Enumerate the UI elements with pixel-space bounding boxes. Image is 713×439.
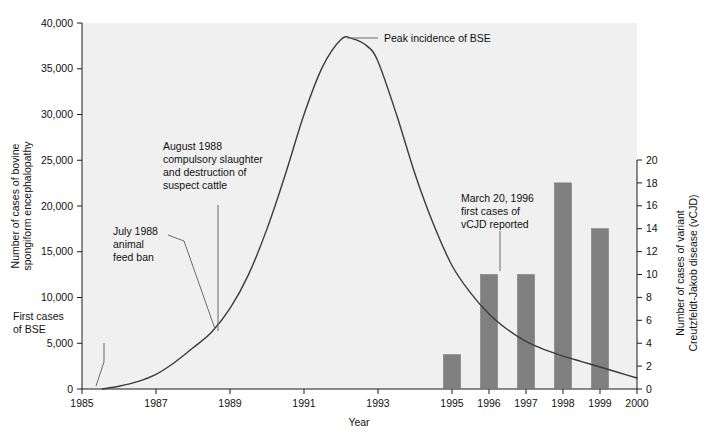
chart-canvas: 05,00010,00015,00020,00025,00030,00035,0… bbox=[0, 0, 713, 439]
left-axis-tick-label: 35,000 bbox=[41, 62, 73, 74]
right-axis-tick-label: 4 bbox=[646, 337, 652, 349]
x-axis-tick-label: 1998 bbox=[551, 397, 575, 409]
right-axis-title-line1: Number of cases of variant bbox=[674, 210, 686, 336]
annotation-text-line: compulsory slaughter bbox=[163, 153, 263, 165]
left-axis-title-line2: spongiform encephalopathy bbox=[21, 141, 33, 271]
annotation-text-line: feed ban bbox=[113, 251, 154, 263]
left-axis-tick-label: 25,000 bbox=[41, 154, 73, 166]
right-axis-tick-label: 0 bbox=[646, 383, 652, 395]
annotation-text-line: animal bbox=[113, 238, 144, 250]
bse-vcjd-chart: 05,00010,00015,00020,00025,00030,00035,0… bbox=[0, 0, 713, 439]
left-axis-tick-label: 10,000 bbox=[41, 291, 73, 303]
annotation-text-line: First cases bbox=[13, 310, 64, 322]
x-axis-tick-label: 1996 bbox=[477, 397, 501, 409]
left-axis-tick-label: 0 bbox=[67, 383, 73, 395]
annotation-text-line: vCJD reported bbox=[461, 218, 529, 230]
left-axis-tick-label: 15,000 bbox=[41, 245, 73, 257]
vcjd-bar bbox=[518, 275, 535, 390]
x-axis-tick-label: 1999 bbox=[588, 397, 612, 409]
right-axis-tick-label: 6 bbox=[646, 314, 652, 326]
annotation-text-line: March 20, 1996 bbox=[461, 192, 534, 204]
left-axis-tick-label: 30,000 bbox=[41, 108, 73, 120]
annotation-text-line: first cases of bbox=[461, 205, 520, 217]
annotation-text-line: and destruction of bbox=[163, 166, 247, 178]
x-axis-tick-label: 1991 bbox=[292, 397, 316, 409]
right-axis-tick-label: 10 bbox=[646, 268, 658, 280]
annotation-text-line: August 1988 bbox=[163, 140, 222, 152]
left-axis-title-line1: Number of cases of bovine bbox=[9, 143, 21, 268]
x-axis-tick-label: 1989 bbox=[218, 397, 242, 409]
x-axis-tick-label: 1995 bbox=[440, 397, 464, 409]
annotation-text-line: Peak incidence of BSE bbox=[384, 32, 491, 44]
annotation-text-line: of BSE bbox=[13, 323, 46, 335]
right-axis-tick-label: 16 bbox=[646, 199, 658, 211]
vcjd-bar bbox=[481, 275, 498, 390]
left-axis-tick-label: 5,000 bbox=[47, 337, 73, 349]
x-axis-tick-label: 1987 bbox=[144, 397, 168, 409]
right-axis-tick-label: 2 bbox=[646, 360, 652, 372]
right-axis-tick-label: 18 bbox=[646, 177, 658, 189]
x-axis-tick-label: 1985 bbox=[70, 397, 94, 409]
annotation-text-line: suspect cattle bbox=[163, 179, 227, 191]
x-axis-tick-label: 2000 bbox=[625, 397, 649, 409]
right-axis-tick-label: 14 bbox=[646, 222, 658, 234]
left-axis-tick-label: 40,000 bbox=[41, 17, 73, 29]
right-axis-tick-label: 8 bbox=[646, 291, 652, 303]
x-axis-tick-label: 1997 bbox=[514, 397, 538, 409]
annotation-text-line: July 1988 bbox=[113, 225, 158, 237]
right-axis-tick-label: 12 bbox=[646, 245, 658, 257]
left-axis-tick-label: 20,000 bbox=[41, 200, 73, 212]
x-axis-tick-label: 1993 bbox=[366, 397, 390, 409]
right-axis-tick-label: 20 bbox=[646, 154, 658, 166]
vcjd-bar bbox=[444, 355, 461, 389]
x-axis-title: Year bbox=[348, 416, 370, 428]
right-axis-title-line2: Creutzfeldt-Jakob disease (vCJD) bbox=[687, 195, 699, 352]
plot-area-background bbox=[82, 23, 637, 389]
